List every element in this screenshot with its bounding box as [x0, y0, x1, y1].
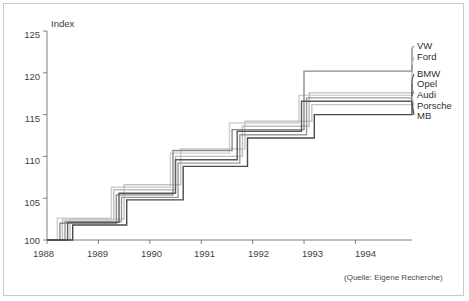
data-series-layer	[47, 48, 412, 240]
legend-item-audi: Audi	[417, 90, 436, 100]
legend-item-vw: VW	[417, 41, 432, 51]
x-tick-label-1992: 1992	[248, 248, 269, 259]
legend-leader-vw	[412, 46, 414, 48]
x-tick-label-1991: 1991	[194, 248, 215, 259]
y-tick-label-105: 105	[14, 197, 40, 208]
y-tick-label-125: 125	[14, 29, 40, 40]
series-line-audi	[47, 88, 412, 240]
y-axis-ticks	[43, 31, 47, 240]
y-tick-label-110: 110	[14, 155, 40, 166]
x-tick-label-1990: 1990	[141, 248, 162, 259]
series-line-opel	[47, 82, 412, 240]
x-tick-label-1993: 1993	[302, 248, 323, 259]
x-tick-label-1994: 1994	[355, 248, 376, 259]
y-tick-label-120: 120	[14, 71, 40, 82]
chart-screenshot: Index 125 120 115 110 105 100 1988 1989 …	[0, 0, 469, 301]
x-tick-label-1988: 1988	[33, 248, 54, 259]
series-line-bmw	[47, 80, 412, 241]
y-tick-label-115: 115	[14, 113, 40, 124]
x-axis-ticks	[47, 240, 355, 244]
chart-canvas	[0, 0, 469, 301]
series-line-porsche	[47, 96, 412, 240]
legend-item-opel: Opel	[417, 79, 437, 89]
y-tick-label-100: 100	[14, 235, 40, 246]
y-axis-title: Index	[51, 18, 74, 29]
legend-item-mb: MB	[417, 111, 431, 121]
legend-item-ford: Ford	[417, 52, 437, 62]
source-note: (Quelle: Eigene Recherche)	[344, 273, 443, 282]
x-tick-label-1989: 1989	[87, 248, 108, 259]
